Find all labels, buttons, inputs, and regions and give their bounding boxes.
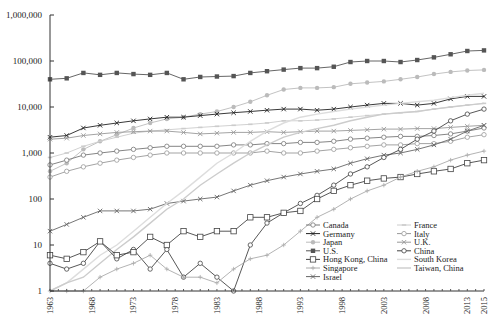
legend-item: Israel	[306, 272, 343, 282]
x-tick-label: 2008	[421, 297, 431, 314]
x-tick-label: 2013	[462, 297, 472, 314]
y-tick-label: 100	[29, 194, 43, 204]
y-tick-label: 1	[38, 286, 43, 296]
y-tick-label: 1,000	[22, 148, 43, 158]
x-tick-label: 2003	[379, 297, 389, 314]
x-tick-label: 1973	[128, 297, 138, 314]
x-tick-label: 1978	[170, 297, 180, 314]
svg-text:Taiwan, China: Taiwan, China	[414, 263, 464, 273]
x-tick-label: 1983	[212, 297, 222, 314]
x-tick-label: 1963	[45, 297, 55, 314]
y-tick-label: 1,000,000	[6, 10, 43, 20]
legend: CanadaGermanyJapanU.S.Hong Kong, ChinaSi…	[306, 220, 464, 282]
line-chart: 1,000,000100,00010,0001,000100101 196319…	[0, 0, 491, 328]
x-tick-label: 2015	[479, 297, 489, 314]
x-tick-label: 1998	[337, 297, 347, 314]
y-axis: 1,000,000100,00010,0001,000100101	[6, 10, 54, 296]
series-italy	[48, 132, 486, 179]
x-tick-label: 1968	[87, 297, 97, 314]
x-axis: 1963196819731978198319881993199820032008…	[45, 289, 489, 314]
series-u-k	[48, 123, 486, 141]
svg-text:Israel: Israel	[323, 272, 343, 282]
x-tick-label: 1993	[295, 297, 305, 314]
series-japan	[48, 68, 486, 174]
x-tick-label: 1988	[254, 297, 264, 314]
y-tick-label: 10	[33, 240, 43, 250]
legend-item: Taiwan, China	[397, 263, 464, 273]
chart-svg: 1,000,000100,00010,0001,000100101 196319…	[0, 0, 491, 328]
y-tick-label: 100,000	[13, 56, 43, 66]
y-tick-label: 10,000	[17, 102, 42, 112]
